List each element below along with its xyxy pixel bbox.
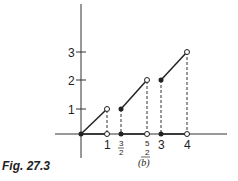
closed-point (159, 132, 164, 137)
segment-3 (161, 52, 187, 80)
open-point (185, 50, 190, 55)
y-tick-label-3: 3 (68, 46, 75, 60)
open-point (145, 78, 150, 83)
panel-label: (b) (138, 157, 150, 169)
open-point (105, 107, 110, 112)
open-point (105, 132, 110, 137)
x-tick-label-3-2-num: 3 (119, 139, 124, 148)
x-tick-label-5-2-den: 2 (145, 148, 150, 157)
y-tick-label-1: 1 (68, 103, 75, 117)
figure-caption: Fig. 27.3 (2, 159, 50, 173)
closed-point (159, 78, 164, 83)
y-tick-label-2: 2 (68, 74, 75, 88)
segment-1 (81, 109, 107, 134)
segment-2 (121, 80, 147, 109)
open-point (145, 132, 150, 137)
x-tick-label-3-2-den: 2 (119, 148, 124, 157)
x-tick-label-1: 1 (104, 138, 111, 152)
x-tick-label-5-2-num: 5 (145, 139, 150, 148)
x-tick-label-3: 3 (158, 138, 165, 152)
x-tick-label-4: 4 (184, 138, 191, 152)
figure-diagram: 1 2 3 1 3 2 5 2 (0, 0, 238, 181)
closed-point (79, 132, 84, 137)
closed-point (119, 107, 124, 112)
graph-segments (81, 52, 187, 134)
closed-point (119, 132, 124, 137)
open-point (185, 132, 190, 137)
closed-points (79, 78, 164, 137)
